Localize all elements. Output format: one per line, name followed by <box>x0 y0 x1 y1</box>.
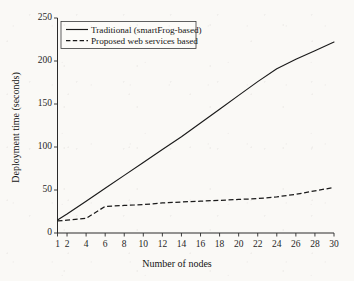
figure: 050100150200250 124681012141618202224262… <box>0 0 354 281</box>
x-axis-ticks <box>58 233 335 237</box>
x-tick-label: 8 <box>122 240 127 250</box>
x-axis-title: Number of nodes <box>0 258 354 269</box>
x-tick-label: 16 <box>196 240 206 250</box>
x-tick-label: 4 <box>84 240 89 250</box>
x-tick-label: 28 <box>310 240 320 250</box>
legend-label-traditional: Traditional (smartFrog-based) <box>91 26 202 35</box>
x-tick-label: 14 <box>177 240 187 250</box>
x-tick-label: 20 <box>234 240 244 250</box>
x-tick-label: 10 <box>139 240 149 250</box>
x-tick-label: 2 <box>65 240 70 250</box>
x-tick-label: 6 <box>103 240 108 250</box>
x-tick-label: 26 <box>291 240 301 250</box>
x-tick-label: 24 <box>272 240 282 250</box>
x-tick-label: 18 <box>215 240 225 250</box>
x-tick-label: 30 <box>329 240 339 250</box>
y-tick-label: 0 <box>10 228 52 238</box>
y-axis-title: Deployment time (seconds) <box>10 48 21 208</box>
legend-label-proposed: Proposed web services based <box>91 37 198 46</box>
x-tick-label: 1 <box>55 240 60 250</box>
series-line-traditional <box>58 42 335 220</box>
y-tick-label: 250 <box>10 13 52 23</box>
x-tick-label: 12 <box>158 240 168 250</box>
x-tick-label: 22 <box>253 240 263 250</box>
y-axis-ticks <box>54 18 58 233</box>
